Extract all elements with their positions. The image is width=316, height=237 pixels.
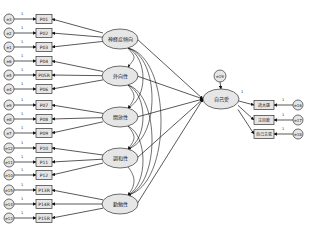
- outcome-error-label: e18: [294, 132, 302, 137]
- fixed-path-label: 1: [282, 98, 284, 102]
- error-term-label: e11: [5, 160, 13, 165]
- structural-path-arrow: [137, 76, 203, 99]
- nodes: 1e3P011e2P021e1P031e6P041e5P05R1e4P061e9…: [4, 12, 303, 223]
- latent-variable-label: 調和性: [113, 155, 128, 162]
- error-term-label: e4: [6, 87, 11, 92]
- loading-path-arrow: [52, 148, 103, 155]
- sem-diagram: 1e3P011e2P021e1P031e6P041e5P05R1e4P061e9…: [0, 0, 316, 237]
- fixed-path-label: 1: [241, 90, 243, 94]
- error-term-label: e13: [5, 216, 13, 221]
- latent-variable-label: 外向性: [113, 73, 128, 80]
- fixed-path-label: 1: [21, 82, 23, 86]
- error-term-label: e12: [5, 146, 13, 151]
- fixed-path-label: 1: [21, 197, 23, 201]
- error-term-label: e3: [6, 17, 11, 22]
- observed-variable-label: P15R: [38, 216, 50, 221]
- loading-path-arrow: [52, 61, 103, 72]
- loading-path-arrow: [52, 122, 103, 133]
- loading-path-arrow: [52, 208, 103, 218]
- observed-variable-label: P03: [40, 45, 49, 50]
- latent-variable-label: 開放性: [113, 114, 128, 121]
- outcome-error-label: e16: [294, 103, 302, 108]
- fixed-path-label: 1: [21, 126, 23, 130]
- error-term-label: e10: [5, 173, 13, 178]
- fixed-path-label: 1: [21, 54, 23, 58]
- outcome-indicator-label: 注目欲: [258, 117, 270, 123]
- observed-variable-label: P14R: [38, 202, 50, 207]
- fixed-path-label: 1: [21, 98, 23, 102]
- fixed-path-label: 1: [21, 12, 23, 16]
- observed-variable-label: P11: [40, 160, 49, 165]
- loading-path-arrow: [52, 33, 103, 37]
- outcome-error-label: e17: [294, 118, 302, 123]
- loading-path-arrow: [52, 190, 103, 200]
- observed-variable-label: P07: [40, 103, 49, 108]
- observed-variable-label: P13R: [38, 188, 50, 193]
- error-term-label: e1: [6, 45, 11, 50]
- error-term-label: e5: [6, 73, 11, 78]
- latent-variable-label: 神経症傾向: [108, 36, 133, 43]
- error-term-label: e2: [6, 31, 11, 36]
- error-term-label: e15: [5, 188, 13, 193]
- observed-variable-label: P04: [40, 59, 49, 64]
- outcome-indicator-label: 自己主張: [256, 131, 272, 137]
- loading-path-arrow: [52, 75, 103, 76]
- loading-path-arrow: [52, 163, 103, 175]
- observed-variable-label: P10: [40, 146, 49, 151]
- covariance-arc: [128, 167, 134, 195]
- outcome-loading-arrow: [238, 110, 254, 135]
- error-term-label: e6: [6, 59, 11, 64]
- structural-path-arrow: [137, 99, 203, 204]
- disturbance-path-arrow: [220, 82, 221, 89]
- fixed-path-label: 1: [21, 112, 23, 116]
- fixed-path-label: 1: [282, 113, 284, 117]
- loading-path-arrow: [52, 159, 103, 162]
- loading-path-arrow: [52, 19, 103, 33]
- observed-variable-label: P06: [40, 87, 49, 92]
- observed-variable-label: P12: [40, 173, 49, 178]
- loading-path-arrow: [52, 118, 103, 119]
- fixed-path-label: 1: [282, 127, 284, 131]
- outcome-indicator-label: 誇大感: [258, 102, 270, 108]
- loading-path-arrow: [52, 80, 103, 89]
- loading-path-arrow: [52, 105, 103, 113]
- fixed-path-label: 1: [21, 183, 23, 187]
- error-term-label: e7: [6, 131, 11, 136]
- fixed-path-label: 1: [21, 26, 23, 30]
- loading-path-arrow: [52, 41, 103, 47]
- observed-variable-label: P09: [40, 131, 49, 136]
- latent-variable-label: 勤勉性: [113, 201, 128, 208]
- error-term-label: e14: [5, 202, 13, 207]
- fixed-path-label: 1: [21, 211, 23, 215]
- fixed-path-label: 1: [21, 141, 23, 145]
- covariance-arc: [128, 48, 134, 67]
- outcome-loading-arrow: [238, 101, 254, 105]
- path-arrows: [14, 19, 293, 218]
- fixed-path-label: 1: [21, 155, 23, 159]
- disturbance-label: e19: [216, 74, 224, 79]
- fixed-path-label: 1: [21, 40, 23, 44]
- central-latent-label: 自己愛: [214, 96, 229, 103]
- fixed-path-label: 1: [21, 68, 23, 72]
- error-term-label: e9: [6, 103, 11, 108]
- error-term-label: e8: [6, 117, 11, 122]
- fixed-path-label: 1: [21, 168, 23, 172]
- observed-variable-label: P05R: [38, 73, 50, 78]
- observed-variable-label: P08: [40, 117, 49, 122]
- observed-variable-label: P01: [40, 17, 49, 22]
- observed-variable-label: P02: [40, 31, 49, 36]
